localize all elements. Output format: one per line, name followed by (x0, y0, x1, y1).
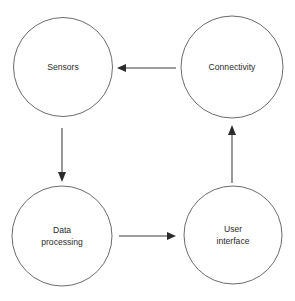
diagram-canvas: Sensors Connectivity Data processing Use… (0, 0, 295, 301)
node-label-sensors: Sensors (47, 62, 79, 72)
arrowhead-right-icon (167, 232, 176, 240)
node-connectivity[interactable]: Connectivity (181, 16, 283, 118)
arrowhead-down-icon (58, 172, 66, 182)
node-data-processing[interactable]: Data processing (12, 186, 112, 286)
node-sensors[interactable]: Sensors (14, 18, 113, 117)
node-label-data-processing-line2: processing (41, 237, 83, 247)
node-label-connectivity: Connectivity (209, 62, 257, 72)
node-label-data-processing-line1: Data (53, 225, 71, 235)
edge-sensors-to-data-processing (58, 128, 66, 182)
node-label-user-interface-line2: interface (217, 236, 250, 246)
edge-user-interface-to-connectivity (228, 125, 236, 183)
arrowhead-up-icon (228, 125, 236, 135)
node-circle-user-interface[interactable] (184, 186, 282, 284)
node-user-interface[interactable]: User interface (184, 186, 282, 284)
edge-connectivity-to-sensors (117, 64, 176, 72)
edge-data-processing-to-user-interface (119, 232, 176, 240)
node-circle-data-processing[interactable] (12, 186, 112, 286)
cycle-diagram: Sensors Connectivity Data processing Use… (0, 0, 295, 301)
node-label-user-interface-line1: User (224, 224, 242, 234)
arrowhead-left-icon (117, 64, 126, 72)
